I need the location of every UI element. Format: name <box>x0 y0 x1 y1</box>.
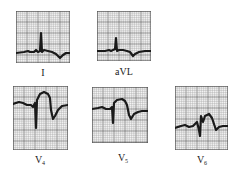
ecg-panel-v6 <box>175 86 228 150</box>
lead-label-v6: V6 <box>182 155 222 166</box>
lead-subscript: 5 <box>125 158 128 164</box>
ecg-grid <box>92 87 148 143</box>
ecg-panel-avl <box>97 11 151 61</box>
ecg-grid <box>13 86 68 150</box>
lead-label-avl: aVL <box>104 67 144 77</box>
ecg-panel-v4 <box>13 86 68 150</box>
ecg-grid <box>16 11 70 63</box>
lead-name: I <box>41 67 44 78</box>
lead-label-i: I <box>23 68 63 78</box>
ecg-grid <box>175 86 228 150</box>
ecg-grid <box>97 11 151 61</box>
lead-label-v5: V5 <box>103 153 143 164</box>
lead-name: aVL <box>115 66 133 77</box>
lead-subscript: 6 <box>204 160 207 166</box>
ecg-panel-v5 <box>92 87 148 143</box>
lead-subscript: 4 <box>42 160 45 166</box>
ecg-panel-i <box>16 11 70 63</box>
lead-label-v4: V4 <box>20 155 60 166</box>
